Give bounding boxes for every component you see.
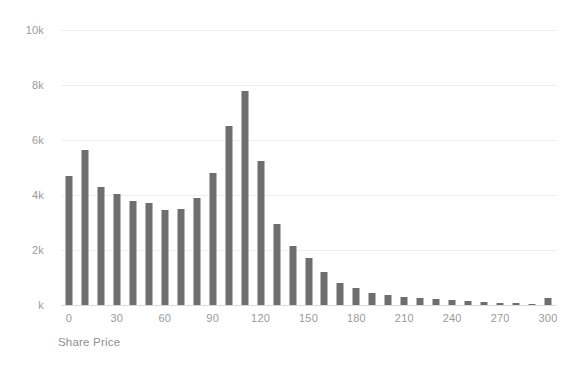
- share-price-histogram: k2k4k6k8k10k 030609012015018021024027030…: [0, 0, 587, 369]
- bar: [545, 298, 552, 305]
- x-tick-label: 270: [491, 312, 510, 324]
- bar: [321, 272, 328, 305]
- bar: [337, 283, 344, 305]
- bar: [97, 187, 104, 305]
- bar: [81, 150, 88, 305]
- x-tick-label: 0: [66, 312, 72, 324]
- x-axis-title: Share Price: [58, 336, 120, 348]
- bar: [113, 194, 120, 305]
- x-tick-label: 90: [206, 312, 219, 324]
- bar: [369, 293, 376, 305]
- bar: [513, 303, 520, 305]
- y-tick-label: 4k: [32, 189, 44, 201]
- bar: [289, 246, 296, 305]
- x-tick-label: 210: [395, 312, 414, 324]
- y-tick-label: 10k: [26, 24, 44, 36]
- y-tick-label: 2k: [32, 244, 44, 256]
- plot-area: [61, 30, 556, 305]
- y-axis-labels: k2k4k6k8k10k: [0, 0, 52, 369]
- bar: [305, 258, 312, 305]
- y-tick-label: 6k: [32, 134, 44, 146]
- x-tick-label: 240: [443, 312, 462, 324]
- bar: [193, 198, 200, 305]
- bar: [401, 297, 408, 305]
- x-tick-label: 120: [251, 312, 270, 324]
- bar: [433, 299, 440, 305]
- bar: [241, 91, 248, 306]
- gridline-k: [61, 305, 556, 306]
- bar: [65, 176, 72, 305]
- y-tick-label: 8k: [32, 79, 44, 91]
- bar: [465, 301, 472, 305]
- bar: [129, 201, 136, 306]
- x-tick-label: 300: [539, 312, 558, 324]
- x-tick-label: 150: [299, 312, 318, 324]
- bar: [497, 303, 504, 305]
- bar: [177, 209, 184, 305]
- bar: [257, 161, 264, 305]
- bar: [273, 224, 280, 305]
- bars-layer: [61, 30, 556, 305]
- bar: [209, 173, 216, 305]
- bar: [353, 288, 360, 305]
- y-tick-label: k: [38, 299, 44, 311]
- x-tick-label: 180: [347, 312, 366, 324]
- bar: [385, 295, 392, 305]
- bar: [161, 210, 168, 305]
- x-tick-label: 60: [158, 312, 171, 324]
- bar: [225, 126, 232, 305]
- bar: [529, 304, 536, 305]
- x-tick-label: 30: [111, 312, 124, 324]
- bar: [145, 203, 152, 305]
- bar: [417, 298, 424, 305]
- bar: [449, 300, 456, 306]
- bar: [481, 302, 488, 305]
